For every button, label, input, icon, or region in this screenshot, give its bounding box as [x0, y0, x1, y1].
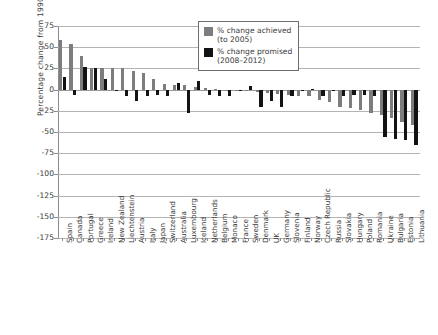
legend-item-promised: % change promised (2008–2012): [204, 47, 292, 66]
y-tick-label--125: -125: [22, 192, 54, 200]
y-tick-label--25: -25: [22, 107, 54, 115]
legend-label-promised-line2: (2008–2012): [217, 56, 265, 65]
x-tick-label: Lithuania: [418, 210, 425, 243]
bar-promised: [404, 90, 407, 141]
bar-achieved: [245, 90, 248, 92]
legend-swatch-promised: [204, 48, 213, 57]
gridline--125: [58, 196, 420, 197]
bar-achieved: [183, 85, 186, 89]
bar-promised: [352, 90, 355, 95]
x-tickmark: [259, 238, 260, 241]
bar-promised: [94, 68, 97, 89]
gridline--100: [58, 174, 420, 175]
x-tickmark: [166, 238, 167, 241]
bar-achieved: [80, 56, 83, 90]
bar-promised: [156, 90, 159, 95]
bar-promised: [63, 77, 66, 90]
bar-promised: [249, 86, 252, 89]
y-tick-label--50: -50: [22, 128, 54, 136]
x-tickmark: [321, 238, 322, 241]
bar-promised: [280, 90, 283, 108]
bar-achieved: [256, 90, 259, 93]
legend-label-promised: % change promised (2008–2012): [217, 47, 292, 66]
y-tick-label--75: -75: [22, 149, 54, 157]
x-tick-label: New Zealand: [118, 196, 125, 243]
bar-achieved: [90, 68, 93, 90]
bar-promised: [301, 90, 304, 91]
bar-achieved: [111, 68, 114, 89]
bar-achieved: [359, 90, 362, 110]
y-tick-label-25: 25: [22, 64, 54, 72]
x-tickmark: [269, 238, 270, 241]
bar-achieved: [204, 88, 207, 90]
x-tickmark: [93, 238, 94, 241]
bar-promised: [104, 79, 107, 90]
bar-achieved: [369, 90, 372, 114]
x-tickmark: [331, 238, 332, 241]
x-tickmark: [217, 238, 218, 241]
bar-achieved: [59, 40, 62, 90]
bar-achieved: [121, 68, 124, 89]
bar-achieved: [349, 90, 352, 109]
x-tickmark: [414, 238, 415, 241]
x-tickmark: [311, 238, 312, 241]
y-tick-label-0: 0: [22, 86, 54, 94]
x-tickmark: [104, 238, 105, 241]
bar-promised: [218, 90, 221, 97]
gridline--75: [58, 153, 420, 154]
bar-promised: [394, 90, 397, 139]
x-tickmark: [135, 238, 136, 241]
bar-achieved: [266, 90, 269, 93]
x-tickmark: [280, 238, 281, 241]
bar-promised: [342, 90, 345, 97]
x-tickmark: [228, 238, 229, 241]
bar-promised: [146, 90, 149, 96]
bar-promised: [115, 90, 118, 91]
legend-label-achieved-line2: (to 2005): [217, 35, 252, 44]
x-tickmark: [73, 238, 74, 241]
legend-item-achieved: % change achieved (to 2005): [204, 26, 292, 45]
bar-promised: [73, 90, 76, 95]
x-tickmark: [373, 238, 374, 241]
bar-promised: [177, 83, 180, 90]
bar-achieved: [390, 90, 393, 118]
x-tickmark: [207, 238, 208, 241]
bar-promised: [373, 90, 376, 97]
bar-promised: [187, 90, 190, 114]
bar-promised: [208, 90, 211, 95]
bar-promised: [125, 90, 128, 97]
x-tick-label: Liechtenstein: [128, 195, 135, 243]
bar-promised: [290, 90, 293, 97]
x-tickmark: [186, 238, 187, 241]
x-tickmark: [83, 238, 84, 241]
bar-achieved: [214, 89, 217, 90]
bar-achieved: [69, 44, 72, 90]
bar-promised: [383, 90, 386, 137]
bar-achieved: [163, 84, 166, 90]
x-tickmark: [114, 238, 115, 241]
bar-promised: [197, 81, 200, 89]
x-tickmark: [352, 238, 353, 241]
x-tick-label: Luxembourg: [190, 198, 197, 243]
bar-achieved: [142, 73, 145, 89]
bar-achieved: [152, 79, 155, 90]
x-tick-label: Czech Republic: [324, 188, 331, 243]
x-tickmark: [362, 238, 363, 241]
bar-achieved: [338, 90, 341, 107]
bar-achieved: [276, 90, 279, 94]
x-tickmark: [176, 238, 177, 241]
x-tickmark: [300, 238, 301, 241]
bar-achieved: [173, 85, 176, 90]
bar-promised: [239, 90, 242, 91]
legend-label-achieved: % change achieved (to 2005): [217, 26, 291, 45]
bar-achieved: [400, 90, 403, 122]
bar-promised: [228, 90, 231, 97]
bar-achieved: [307, 90, 310, 97]
legend-label-promised-line1: % change promised: [217, 47, 292, 56]
x-tickmark: [383, 238, 384, 241]
bar-promised: [135, 90, 138, 101]
bar-achieved: [318, 90, 321, 100]
x-tickmark: [290, 238, 291, 241]
x-tick-label: Netherlands: [211, 199, 218, 243]
bar-promised: [414, 90, 417, 145]
